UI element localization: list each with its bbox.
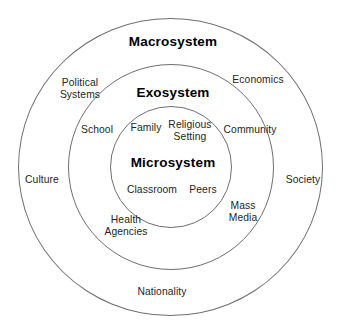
label-community: Community <box>224 124 277 136</box>
label-political-systems: Political Systems <box>60 77 100 100</box>
label-classroom: Classroom <box>127 184 177 196</box>
microsystem-title: Microsystem <box>131 155 216 170</box>
label-mass-media: Mass Media <box>229 200 258 223</box>
label-economics: Economics <box>232 74 283 86</box>
label-family: Family <box>131 122 162 134</box>
macrosystem-title: Macrosystem <box>129 34 218 49</box>
label-school: School <box>81 124 113 136</box>
label-nationality: Nationality <box>137 286 186 298</box>
label-culture: Culture <box>25 174 59 186</box>
label-society: Society <box>286 174 320 186</box>
ecological-systems-diagram: Macrosystem Political Systems Economics … <box>0 0 341 334</box>
label-health-agencies: Health Agencies <box>104 214 147 237</box>
label-religious-setting: Religious Setting <box>168 119 211 142</box>
label-peers: Peers <box>189 184 216 196</box>
exosystem-title: Exosystem <box>136 85 209 100</box>
